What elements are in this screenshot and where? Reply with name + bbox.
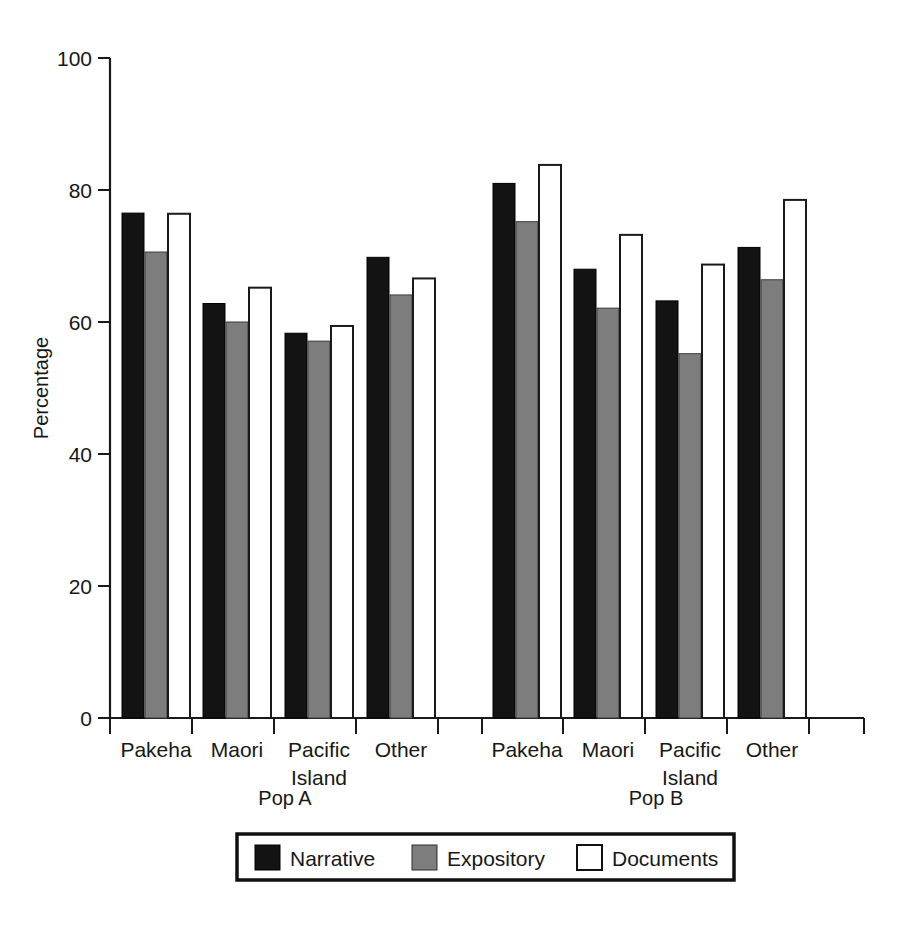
category-label: Other	[375, 738, 428, 761]
bar-documents	[168, 214, 190, 718]
category-separator-ticks	[110, 718, 864, 734]
group-label: Pop A	[258, 787, 312, 809]
figure-caption	[55, 900, 875, 922]
category-label: Pakeha	[491, 738, 563, 761]
bar-documents	[249, 288, 271, 718]
bar-expository	[597, 308, 619, 718]
category-label: Other	[746, 738, 799, 761]
bar-narrative	[122, 213, 144, 718]
y-tick-label-80: 80	[69, 179, 92, 202]
category-label: Pacific	[288, 738, 350, 761]
bar-documents	[331, 326, 353, 718]
bar-expository	[679, 354, 701, 718]
y-tick-label-20: 20	[69, 575, 92, 598]
bar-expository	[390, 295, 412, 718]
group-label: Pop B	[629, 787, 683, 809]
bar-narrative	[738, 247, 760, 718]
chart-legend: Narrative Expository Documents	[237, 834, 734, 880]
outline-white-swatch	[577, 845, 602, 870]
y-tick-label-40: 40	[69, 443, 92, 466]
legend-label-expository: Expository	[447, 847, 546, 870]
y-tick-label-100: 100	[57, 47, 92, 70]
bar-narrative	[574, 269, 596, 718]
bar-documents	[620, 235, 642, 718]
category-label: Pacific	[659, 738, 721, 761]
category-label: Island	[662, 766, 718, 789]
bar-documents	[413, 278, 435, 718]
bar-expository	[145, 252, 167, 718]
bar-narrative	[367, 257, 389, 718]
category-label: Maori	[211, 738, 264, 761]
bar-narrative	[285, 333, 307, 718]
category-label: Maori	[582, 738, 635, 761]
category-labels: PakehaMaoriPacificIslandOtherPakehaMaori…	[120, 738, 798, 789]
legend-label-documents: Documents	[612, 847, 718, 870]
bar-documents	[539, 165, 561, 718]
bar-documents	[784, 200, 806, 718]
bar-documents	[702, 265, 724, 718]
solid-black-swatch	[255, 845, 280, 870]
y-tick-label-0: 0	[80, 707, 92, 730]
solid-gray-swatch	[412, 845, 437, 870]
bar-narrative	[203, 304, 225, 718]
bar-expository	[308, 341, 330, 718]
bar-expository	[226, 322, 248, 718]
bar-chart-figure: 100 80 60 40 20 0 Percentage PakehaMaori…	[0, 0, 914, 931]
legend-label-narrative: Narrative	[290, 847, 375, 870]
group-labels: Pop APop B	[258, 787, 683, 809]
category-label: Pakeha	[120, 738, 192, 761]
y-axis-title: Percentage	[30, 337, 52, 439]
bar-expository	[516, 222, 538, 718]
y-axis-ticks: 100 80 60 40 20 0	[57, 47, 110, 730]
y-tick-label-60: 60	[69, 311, 92, 334]
bar-narrative	[493, 183, 515, 718]
bar-narrative	[656, 301, 678, 718]
bar-expository	[761, 280, 783, 718]
category-label: Island	[291, 766, 347, 789]
chart-canvas: 100 80 60 40 20 0 Percentage PakehaMaori…	[0, 0, 914, 931]
bars-layer	[122, 165, 806, 718]
